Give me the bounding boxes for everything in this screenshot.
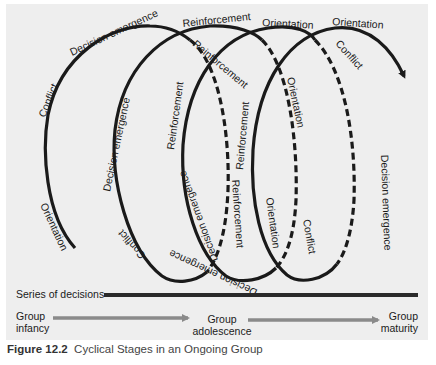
figure-caption: Figure 12.2 Cyclical Stages in an Ongoin…	[7, 343, 263, 355]
label-l2-bottom-decision: Decision emergence	[176, 169, 220, 263]
stage-line2: infancy	[16, 322, 49, 334]
label-back-orientation-2: Orientation	[264, 197, 283, 250]
label-back-decision: Decision emergence	[379, 155, 394, 251]
stage-line1: Group	[192, 313, 252, 325]
figure-number: Figure 12.2	[7, 343, 68, 355]
label-back-reinforcement-2: Reinforcement	[230, 179, 247, 248]
series-of-decisions-label: Series of decisions	[16, 288, 104, 300]
loop-3-back	[315, 40, 354, 264]
stage-line1: Group	[380, 310, 418, 322]
stage-line2: maturity	[380, 322, 418, 334]
figure-title: Cyclical Stages in an Ongoing Group	[74, 343, 263, 355]
label-back-conflict-2: Conflict	[301, 218, 319, 255]
stage-group-maturity: Group maturity	[380, 310, 418, 334]
label-back-conflict-1: Conflict	[334, 37, 366, 71]
spiral-diagram: Orientation Conflict Decision emergence …	[0, 0, 436, 365]
label-l1-decision: Decision emergence	[68, 6, 160, 57]
stage-group-adolescence: Group adolescence	[192, 313, 252, 337]
label-l1-conflict: Conflict	[36, 82, 60, 119]
stage-line2: adolescence	[192, 325, 252, 337]
label-l3-reinforcement: Reinforcement	[233, 101, 251, 170]
stage-line1: Group	[16, 310, 49, 322]
stage-group-infancy: Group infancy	[16, 310, 49, 334]
